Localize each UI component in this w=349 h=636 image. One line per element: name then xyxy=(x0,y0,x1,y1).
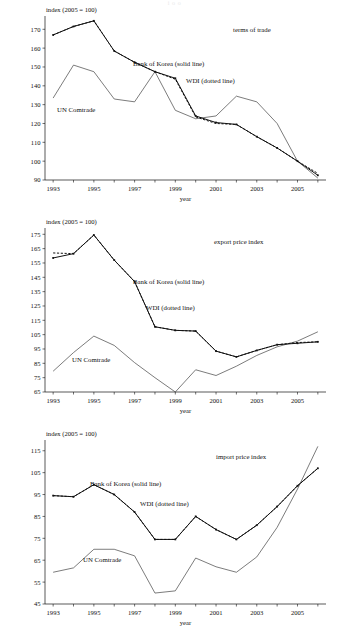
legend-annotation-un-comtrade: UN Comtrade xyxy=(72,356,110,363)
data-point xyxy=(317,467,319,469)
x-tick-label: 2003 xyxy=(250,397,264,404)
chart-panel-export-price-index: index (2005 = 100)6575859510511512513514… xyxy=(0,212,349,424)
x-tick-label: 1995 xyxy=(87,185,101,192)
chart-panel-terms-of-trade: index (2005 = 100)9010011012013014015016… xyxy=(0,0,349,212)
y-tick-label: 85 xyxy=(34,513,41,520)
y-tick-label: 95 xyxy=(34,345,41,352)
y-tick-label: 115 xyxy=(31,317,41,324)
y-tick-label: 75 xyxy=(34,535,41,542)
y-tick-label: 45 xyxy=(34,600,41,607)
x-tick-label: 2003 xyxy=(250,609,264,616)
chart-svg: index (2005 = 100)4555657585951051151993… xyxy=(0,424,349,636)
x-tick-label: 2005 xyxy=(291,397,305,404)
y-tick-label: 95 xyxy=(34,491,41,498)
x-axis-title: year xyxy=(180,619,192,626)
y-tick-label: 65 xyxy=(34,557,41,564)
figure-page: i o o index (2005 = 100)9010011012013014… xyxy=(0,0,349,636)
x-tick-label: 1995 xyxy=(87,397,101,404)
x-tick-label: 1997 xyxy=(128,609,142,616)
y-tick-label: 160 xyxy=(31,45,42,52)
y-tick-label: 65 xyxy=(34,388,41,395)
y-tick-label: 85 xyxy=(34,360,41,367)
y-tick-label: 130 xyxy=(31,101,42,108)
y-tick-label: 140 xyxy=(31,82,42,89)
y-tick-label: 155 xyxy=(31,259,42,266)
y-tick-label: 115 xyxy=(31,447,41,454)
y-tick-label: 105 xyxy=(31,469,42,476)
chart-title-annotation: export price index xyxy=(214,238,264,245)
x-tick-label: 2005 xyxy=(291,185,305,192)
x-tick-label: 2001 xyxy=(209,397,222,404)
legend-annotation-bank-of-korea: Bank of Korea (solid line) xyxy=(133,60,204,68)
chart-svg: index (2005 = 100)6575859510511512513514… xyxy=(0,212,349,424)
y-tick-label: 55 xyxy=(34,579,41,586)
x-axis-title: year xyxy=(180,407,192,414)
x-tick-label: 1999 xyxy=(169,609,183,616)
data-point xyxy=(195,330,197,332)
series-line-comtrade xyxy=(53,446,318,593)
y-tick-label: 125 xyxy=(31,302,42,309)
x-tick-label: 1995 xyxy=(87,609,101,616)
x-tick-label: 1997 xyxy=(128,397,142,404)
data-point xyxy=(52,257,54,259)
legend-annotation-un-comtrade: UN Comtrade xyxy=(57,106,95,113)
x-tick-label: 2005 xyxy=(291,609,305,616)
x-tick-label: 1993 xyxy=(47,185,61,192)
y-tick-label: 90 xyxy=(34,176,41,183)
x-tick-label: 2001 xyxy=(209,185,222,192)
x-tick-label: 1999 xyxy=(169,185,183,192)
series-line-wdi xyxy=(53,235,318,357)
y-tick-label: 145 xyxy=(31,274,42,281)
x-tick-label: 2003 xyxy=(250,185,264,192)
y-tick-label: 150 xyxy=(31,63,42,70)
x-tick-label: 1993 xyxy=(47,609,61,616)
x-tick-label: 1993 xyxy=(47,397,61,404)
y-tick-label: 135 xyxy=(31,288,42,295)
series-line-bank-of-korea xyxy=(53,235,318,357)
legend-annotation-bank-of-korea: Bank of Korea (solid line) xyxy=(90,480,161,488)
y-axis-label: index (2005 = 100) xyxy=(46,218,97,226)
chart-panel-import-price-index: index (2005 = 100)4555657585951051151993… xyxy=(0,424,349,636)
x-axis-title: year xyxy=(180,195,192,202)
y-tick-label: 120 xyxy=(31,120,42,127)
legend-annotation-wdi: WDI (dotted line) xyxy=(146,304,195,312)
legend-annotation-bank-of-korea: Bank of Korea (solid line) xyxy=(133,278,204,286)
legend-annotation-wdi: WDI (dotted line) xyxy=(186,77,235,85)
y-tick-label: 175 xyxy=(31,231,42,238)
y-axis-label: index (2005 = 100) xyxy=(46,430,97,438)
y-tick-label: 165 xyxy=(31,245,42,252)
y-axis-label: index (2005 = 100) xyxy=(46,6,97,14)
legend-annotation-un-comtrade: UN Comtrade xyxy=(83,556,121,563)
chart-title-annotation: import price index xyxy=(216,453,267,460)
data-point xyxy=(317,341,319,343)
x-tick-label: 2001 xyxy=(209,609,222,616)
y-tick-label: 100 xyxy=(31,158,42,165)
y-tick-label: 75 xyxy=(34,374,41,381)
series-line-wdi xyxy=(53,21,318,174)
chart-svg: index (2005 = 100)9010011012013014015016… xyxy=(0,0,349,212)
y-tick-label: 170 xyxy=(31,26,42,33)
data-point xyxy=(317,174,319,176)
x-tick-label: 1999 xyxy=(169,397,183,404)
y-tick-label: 110 xyxy=(31,139,41,146)
chart-title-annotation: terms of trade xyxy=(233,26,271,33)
legend-annotation-wdi: WDI (dotted line) xyxy=(140,500,189,508)
y-tick-label: 105 xyxy=(31,331,42,338)
x-tick-label: 1997 xyxy=(128,185,142,192)
